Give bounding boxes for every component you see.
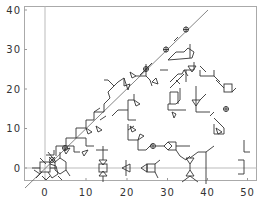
glyph-paths [32, 27, 250, 185]
x-tick-label: 40 [200, 187, 215, 198]
x-tick-label: 0 [41, 187, 48, 198]
y-tick-label: 0 [14, 163, 21, 174]
x-tick-label: 10 [79, 187, 94, 198]
chart: 40 30 20 10 0 0 10 20 30 40 50 [0, 0, 261, 205]
x-tick-label: 30 [160, 187, 175, 198]
x-tick-label: 50 [240, 187, 255, 198]
y-tick-label: 30 [6, 44, 21, 55]
y-tick-label: 20 [6, 84, 21, 95]
x-tick-label: 20 [120, 187, 135, 198]
y-tick-label: 10 [6, 123, 21, 134]
diagonal-line [25, 10, 208, 188]
y-tick-label: 40 [6, 5, 21, 16]
